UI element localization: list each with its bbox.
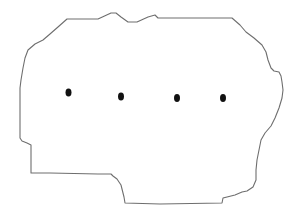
region-outline	[20, 13, 283, 204]
dot-1	[66, 89, 72, 97]
dot-4	[220, 94, 226, 102]
dot-2	[118, 93, 124, 101]
diagram-canvas	[0, 0, 297, 218]
dot-3	[174, 94, 180, 102]
